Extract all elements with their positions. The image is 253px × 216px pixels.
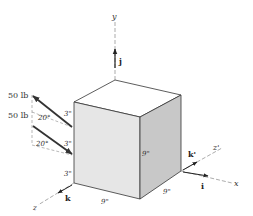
angle-label-upper: 20° bbox=[37, 114, 50, 122]
force-label-lower: 50 lb bbox=[8, 111, 28, 120]
j-unit-vector: j bbox=[115, 49, 122, 68]
cube bbox=[74, 80, 181, 199]
dim-spacing-bottom: 3" bbox=[64, 170, 72, 178]
dim-front-width: 9" bbox=[101, 198, 109, 206]
k-prime-unit-vector: k' bbox=[183, 149, 197, 170]
dim-depth: 9" bbox=[163, 188, 171, 196]
angle-label-lower: 20° bbox=[35, 140, 48, 148]
k-prime-label: k' bbox=[188, 149, 196, 159]
dim-height: 9" bbox=[142, 150, 150, 158]
y-axis: y bbox=[111, 12, 117, 80]
z-prime-axis-label: z' bbox=[212, 143, 219, 152]
x-axis-label: x bbox=[234, 179, 239, 188]
z-axis-label: z bbox=[32, 204, 37, 212]
i-unit-vector: i bbox=[183, 172, 208, 191]
cube-force-diagram: y j x i z' k' z k bbox=[0, 0, 253, 216]
cube-front-face bbox=[74, 102, 140, 199]
j-label: j bbox=[118, 56, 122, 66]
dim-spacing-top: 3" bbox=[64, 110, 72, 118]
y-axis-label: y bbox=[111, 12, 117, 21]
k-unit-vector: k bbox=[58, 185, 72, 203]
k-label: k bbox=[65, 193, 71, 203]
dim-spacing-middle: 3" bbox=[64, 140, 72, 148]
i-label: i bbox=[201, 181, 204, 191]
force-label-upper: 50 lb bbox=[8, 91, 28, 100]
